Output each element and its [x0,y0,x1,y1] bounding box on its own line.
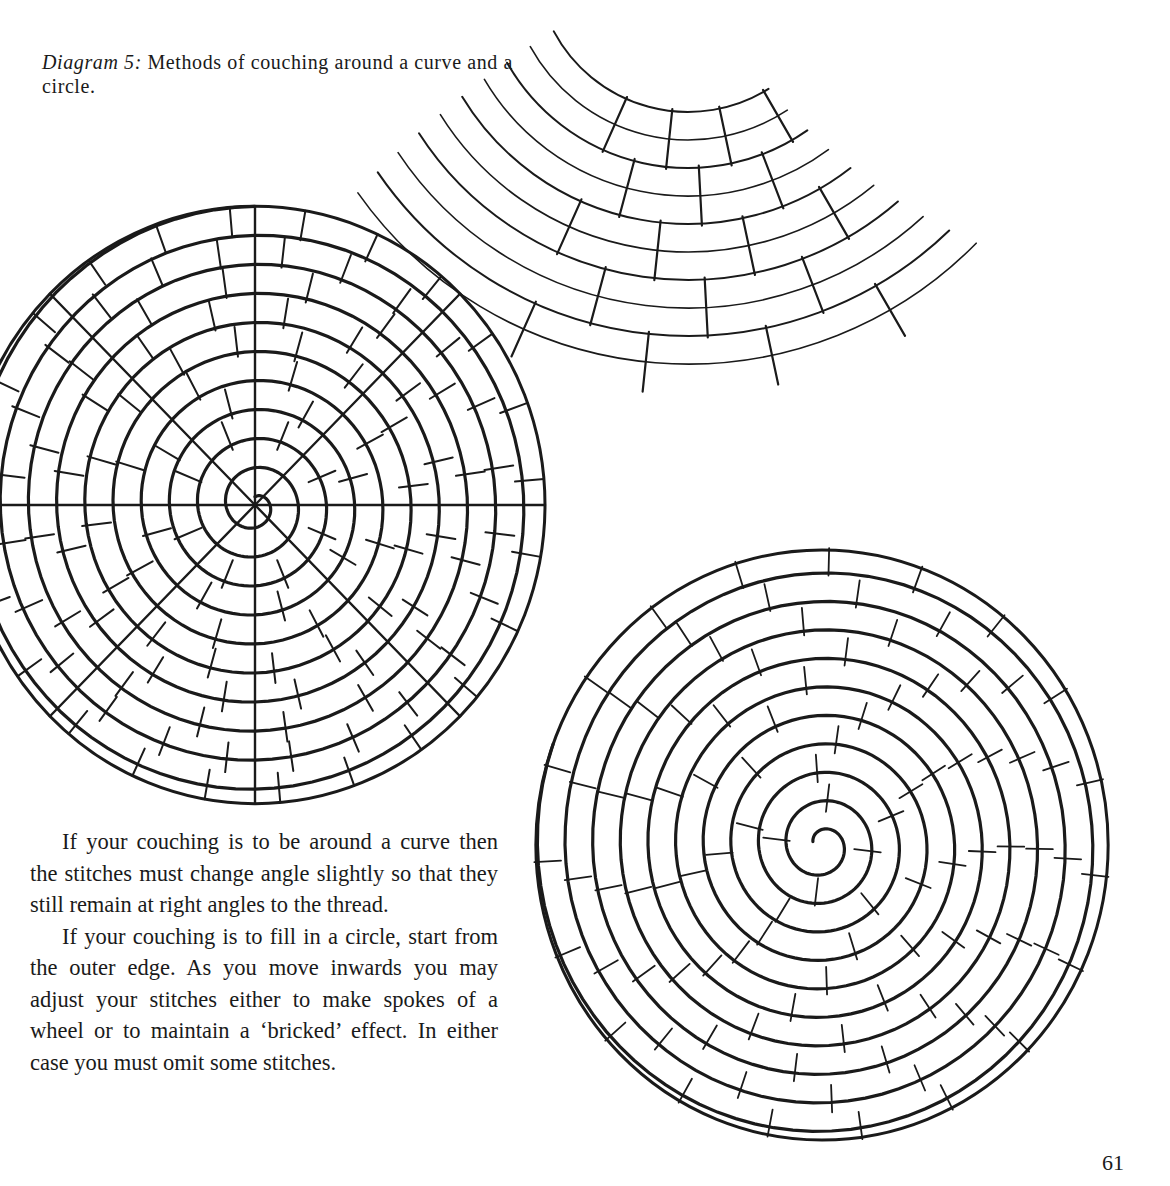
bricked-circle-diagram [534,548,1108,1140]
body-text: If your couching is to be around a curve… [30,826,498,1078]
page-number: 61 [1102,1150,1124,1176]
spoke-circle-diagram [0,206,545,803]
paragraph-2: If your couching is to fill in a circle,… [30,921,498,1079]
paragraph-1: If your couching is to be around a curve… [30,826,498,921]
curve-couching-diagram [358,31,976,391]
